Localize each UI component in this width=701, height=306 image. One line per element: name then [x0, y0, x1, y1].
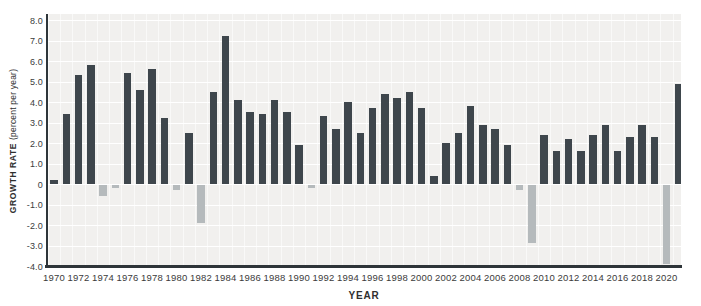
gridline-vertical [624, 14, 625, 267]
bar-1999 [406, 92, 414, 184]
bar-1980 [173, 185, 181, 190]
bar-1982 [197, 185, 205, 223]
bar-2010 [540, 135, 548, 184]
gridline-vertical [391, 14, 392, 267]
y-tick-label: 1.0 [15, 159, 43, 169]
gridline-vertical [146, 14, 147, 267]
bar-2008 [516, 185, 524, 190]
x-tick-label: 2020 [650, 272, 684, 283]
y-tick-label: 6.0 [15, 57, 43, 67]
gridline-vertical [342, 14, 343, 267]
gridline-vertical [501, 14, 502, 267]
gridline-vertical [85, 14, 86, 267]
gridline-vertical [452, 14, 453, 267]
bar-1978 [148, 69, 156, 184]
gridline-vertical [636, 14, 637, 267]
gridline-vertical [158, 14, 159, 267]
bar-2011 [553, 151, 561, 184]
bar-1979 [161, 118, 169, 184]
bar-2002 [442, 143, 450, 184]
gridline-vertical [305, 14, 306, 267]
bar-1973 [87, 65, 95, 184]
y-tick-label: -1.0 [15, 200, 43, 210]
bar-1972 [75, 75, 83, 184]
x-axis-title: YEAR [264, 290, 464, 301]
gridline-vertical [526, 14, 527, 267]
bar-1981 [185, 133, 193, 184]
y-axis-title: GROWTH RATE (percent per year) [8, 26, 18, 256]
y-tick-label: 2.0 [15, 139, 43, 149]
bar-2004 [467, 106, 475, 184]
gridline-vertical [575, 14, 576, 267]
y-tick-label: -2.0 [15, 221, 43, 231]
gridline-vertical [121, 14, 122, 267]
bar-2016 [614, 151, 622, 184]
gridline-vertical [379, 14, 380, 267]
gridline-vertical [244, 14, 245, 267]
gridline-vertical [48, 14, 49, 267]
gridline-vertical [268, 14, 269, 267]
gridline-vertical [440, 14, 441, 267]
bar-2014 [589, 135, 597, 184]
bar-1996 [369, 108, 377, 184]
gridline-vertical [562, 14, 563, 267]
bar-1976 [124, 73, 132, 184]
bar-2007 [504, 145, 512, 184]
gridline-vertical [673, 14, 674, 267]
gridline-vertical [550, 14, 551, 267]
bar-2006 [491, 129, 499, 184]
bar-1990 [295, 145, 303, 184]
gridline-vertical [366, 14, 367, 267]
bar-1970 [50, 180, 58, 184]
gridline-vertical [232, 14, 233, 267]
gridline-vertical [599, 14, 600, 267]
bar-2001 [430, 176, 438, 184]
gridline-vertical [489, 14, 490, 267]
bar-1977 [136, 90, 144, 184]
gridline-vertical [513, 14, 514, 267]
gridline-vertical [611, 14, 612, 267]
bar-1997 [381, 94, 389, 184]
y-tick-label: -3.0 [15, 241, 43, 251]
gridline-vertical [354, 14, 355, 267]
gridline-vertical [538, 14, 539, 267]
y-tick-label: 0 [15, 180, 43, 190]
y-tick-label: 4.0 [15, 98, 43, 108]
gridline-vertical [195, 14, 196, 267]
bar-1985 [234, 100, 242, 184]
bar-1992 [320, 116, 328, 184]
x-axis-line [45, 265, 682, 268]
y-tick-label: 5.0 [15, 77, 43, 87]
bar-2021 [675, 84, 681, 184]
gridline-vertical [317, 14, 318, 267]
bar-2020 [663, 185, 671, 264]
gridline-vertical [660, 14, 661, 267]
bar-1994 [344, 102, 352, 184]
gridline-vertical [587, 14, 588, 267]
bar-1991 [308, 185, 316, 188]
gridline-vertical [183, 14, 184, 267]
gridline-vertical [170, 14, 171, 267]
gridline-vertical [207, 14, 208, 267]
gridline-vertical [428, 14, 429, 267]
gridline-vertical [256, 14, 257, 267]
bar-1995 [357, 133, 365, 184]
bar-1993 [332, 129, 340, 184]
gridline-vertical [109, 14, 110, 267]
gdp-growth-rate-figure: 8.07.06.05.04.03.02.01.00-1.0-2.0-3.0-4.… [0, 0, 701, 306]
bar-1983 [210, 92, 218, 184]
bar-2009 [528, 185, 536, 243]
gridline-vertical [219, 14, 220, 267]
bar-1987 [259, 114, 267, 184]
bar-2018 [638, 125, 646, 184]
gridline-vertical [97, 14, 98, 267]
bar-1974 [99, 185, 107, 196]
bar-2012 [565, 139, 573, 184]
gridline-vertical [72, 14, 73, 267]
bar-1971 [63, 114, 71, 184]
bar-2000 [418, 108, 426, 184]
y-tick-label: 8.0 [15, 16, 43, 26]
gridline-vertical [415, 14, 416, 267]
gridline-vertical [330, 14, 331, 267]
gridline-vertical [464, 14, 465, 267]
